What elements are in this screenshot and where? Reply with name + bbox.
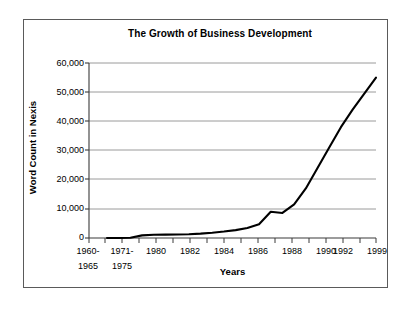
plot-area bbox=[0, 0, 409, 311]
y-axis-ticks bbox=[85, 63, 89, 238]
data-line-word-count bbox=[107, 78, 376, 238]
x-axis-ticks bbox=[89, 238, 376, 243]
gridlines bbox=[89, 63, 376, 209]
chart-figure: The Growth of Business Development Word … bbox=[0, 0, 409, 311]
